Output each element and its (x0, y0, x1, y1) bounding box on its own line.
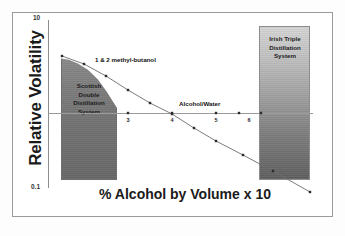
scottish-label-line4: System (62, 108, 116, 117)
y-axis-title: Relative Volatility (26, 18, 46, 178)
x-axis-title: % Alcohol by Volume x 10 (60, 186, 310, 202)
irish-label-line3: System (261, 52, 309, 61)
y-axis-line (48, 20, 49, 188)
chart-figure: Scottish Double Distillation System Iris… (0, 0, 345, 236)
x-axis-baseline (48, 113, 313, 114)
y-axis-tick-bottom: 0.1 (31, 183, 40, 190)
irish-label-line2: Distillation (261, 44, 309, 53)
x-axis-tick-4: 4 (167, 117, 177, 123)
scottish-region-label: Scottish Double Distillation System (62, 82, 116, 116)
scottish-label-line1: Scottish (62, 82, 116, 91)
annotation-methyl-butanol: 1 & 2 methyl-butanol (95, 56, 156, 63)
annotation-alcohol-water: Alcohol/Water (179, 100, 220, 107)
x-axis-tick-3: 3 (123, 117, 133, 123)
x-axis-tick-5: 5 (211, 117, 221, 123)
x-axis-tick-6: 6 (244, 117, 254, 123)
irish-region-label: Irish Triple Distillation System (261, 35, 309, 61)
scottish-label-line2: Double (62, 91, 116, 100)
scottish-label-line3: Distillation (62, 99, 116, 108)
irish-label-line1: Irish Triple (261, 35, 309, 44)
